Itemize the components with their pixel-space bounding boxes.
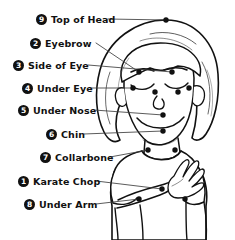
point-number-badge: 3 [13,60,24,71]
point-number-badge: 4 [22,83,33,94]
point-label-under-eye: 4Under Eye [22,81,93,95]
point-number-badge: 1 [18,176,29,187]
point-number-badge: 2 [30,38,41,49]
point-label-text: Top of Head [51,14,116,25]
point-number-badge: 8 [24,199,35,210]
point-label-text: Under Eye [37,83,93,94]
tapping-point-marker [136,69,141,74]
point-label-text: Under Nose [33,105,96,116]
point-number-badge: 9 [36,14,47,25]
point-label-text: Chin [61,129,85,140]
head-group [97,20,219,145]
point-number-badge: 5 [18,105,29,116]
tapping-point-marker-under-eye-inner [152,89,157,94]
tapping-point-marker [160,112,165,117]
point-number-badge: 7 [40,152,51,163]
tapping-point-marker [159,186,164,191]
point-label-text: Side of Eye [28,60,89,71]
tapping-point-marker [136,196,141,201]
point-label-collarbone: 7Collarbone [40,150,114,164]
leader-line [108,19,166,20]
point-label-eyebrow: 2Eyebrow [30,36,92,50]
tapping-point-marker-under-eye-left-outer [186,85,191,90]
point-label-chin: 6Chin [46,127,85,141]
tapping-point-marker [163,17,168,22]
tapping-point-marker [169,69,174,74]
point-label-under-arm: 8Under Arm [24,197,98,211]
point-label-text: Karate Chop [33,176,100,187]
tapping-point-marker-under-eye-right-inner [175,89,180,94]
tapping-point-marker-collarbone-right [172,147,177,152]
point-label-karate-chop: 1Karate Chop [18,174,100,188]
point-label-text: Eyebrow [45,38,92,49]
tapping-point-marker [160,128,165,133]
ear-right [193,86,205,106]
tapping-point-marker [130,85,135,90]
point-label-under-nose: 5Under Nose [18,103,96,117]
point-label-text: Under Arm [39,199,98,210]
tapping-point-marker [145,147,150,152]
point-number-badge: 6 [46,129,57,140]
eft-tapping-points-diagram: 9Top of Head2Eyebrow3Side of Eye4Under E… [0,0,235,240]
tapping-point-marker-under-arm-right [182,196,187,201]
point-label-text: Collarbone [55,152,114,163]
point-label-side-of-eye: 3Side of Eye [13,58,89,72]
point-label-top-of-head: 9Top of Head [36,12,116,26]
